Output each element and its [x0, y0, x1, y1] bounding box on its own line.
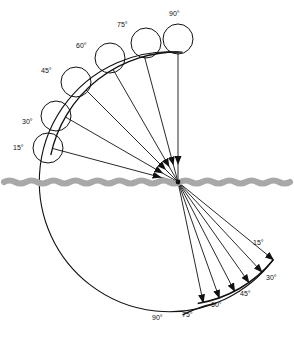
refracted-ray-15: [200, 287, 203, 303]
incident-source-markers: [33, 24, 193, 163]
source-circle-15: [33, 133, 63, 163]
refracted-angle-label-75: 75°: [182, 311, 193, 318]
incidence-point-dot: [176, 180, 181, 185]
ray-diagram-svg: 15°30°45°60°75°90°15°30°45°60°75°90°: [0, 0, 294, 344]
refracted-angle-label-15: 15°: [253, 239, 264, 246]
water-surface: [4, 181, 290, 184]
refracted-angle-label-60: 60°: [211, 301, 222, 308]
refracted-angle-label-45: 45°: [240, 290, 251, 297]
refracted-ray-75: [251, 260, 262, 272]
refracted-arc-path: [198, 260, 274, 304]
refracted-ray-90: [261, 250, 273, 260]
incident-angle-label-75: 75°: [117, 21, 128, 28]
refracted-angle-label-90: 90°: [152, 314, 163, 321]
incident-angle-label-15: 15°: [13, 144, 24, 151]
refracted-ray-tail-45: [178, 182, 227, 277]
incident-ray-45: [86, 90, 165, 169]
diagram-canvas: 15°30°45°60°75°90°15°30°45°60°75°90°: [0, 0, 294, 344]
incident-angle-label-45: 45°: [41, 67, 52, 74]
refracted-angle-label-30: 30°: [266, 274, 277, 281]
refracted-ray-tail-75: [178, 182, 251, 260]
incident-arc-path: [51, 52, 183, 155]
incidence-point: [176, 180, 181, 185]
refracted-arc: [198, 260, 274, 304]
incident-angle-label-60: 60°: [76, 42, 87, 49]
refracted-ray-45: [227, 277, 234, 291]
incident-arc: [51, 52, 183, 155]
refracted-ray-60: [240, 269, 249, 282]
water-surface-wave: [4, 181, 290, 184]
source-circle-90: [163, 24, 193, 54]
refracted-ray-30: [214, 283, 219, 298]
source-circle-60: [95, 43, 125, 73]
incident-angle-label-90: 90°: [169, 10, 180, 17]
incident-angle-label-30: 30°: [22, 118, 33, 125]
